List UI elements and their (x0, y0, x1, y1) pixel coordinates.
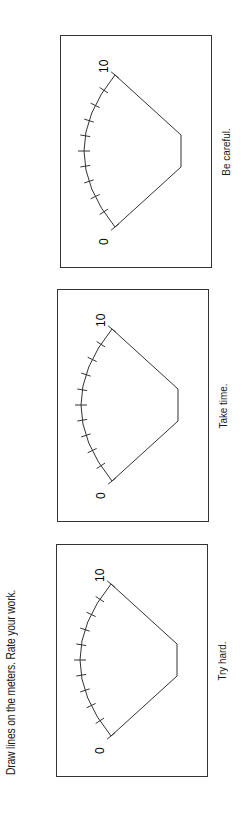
tick-mark (108, 478, 116, 484)
caption-take-time: Take time. (217, 346, 229, 466)
tick-mark (87, 703, 96, 707)
meter-take-time[interactable]: 0 10 (57, 289, 209, 522)
tick-mark (111, 72, 119, 78)
meter-be-careful[interactable]: 0 10 (60, 35, 212, 268)
tick-mark (88, 448, 97, 452)
gauge-icon: 0 10 (61, 34, 213, 267)
tick-mark (97, 341, 105, 346)
instruction-text: Draw lines on the meters. Rate your work… (4, 590, 18, 775)
scale-min-label: 0 (93, 747, 107, 754)
scale-max-label: 10 (93, 568, 107, 582)
tick-mark (96, 596, 104, 601)
tick-mark (100, 87, 108, 92)
gauge-icon: 0 10 (58, 288, 210, 521)
caption-try-hard: Try hard. (216, 601, 228, 721)
tick-mark (100, 209, 108, 214)
scale-min-label: 0 (97, 238, 111, 245)
tick-mark (96, 718, 104, 723)
tick-mark (108, 326, 116, 332)
tick-mark (91, 194, 100, 198)
tick-mark (107, 581, 115, 587)
tick-mark (91, 103, 100, 107)
scale-max-label: 10 (94, 313, 108, 327)
scale-max-label: 10 (97, 59, 111, 73)
meter-try-hard[interactable]: 0 10 (56, 544, 208, 777)
tick-mark (88, 357, 97, 361)
tick-mark (87, 612, 96, 616)
tick-mark (97, 463, 105, 468)
worksheet: Draw lines on the meters. Rate your work… (0, 0, 246, 817)
tick-mark (111, 224, 119, 230)
caption-be-careful: Be careful. (220, 92, 232, 212)
tick-mark (107, 733, 115, 739)
scale-min-label: 0 (94, 492, 108, 499)
gauge-icon: 0 10 (57, 543, 209, 776)
